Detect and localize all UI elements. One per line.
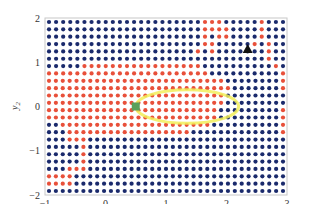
point-red bbox=[182, 71, 186, 75]
point-blue bbox=[189, 57, 193, 61]
point-red bbox=[61, 115, 65, 119]
point-blue bbox=[267, 101, 271, 105]
point-red bbox=[102, 130, 106, 134]
point-blue bbox=[198, 145, 202, 149]
point-blue bbox=[274, 152, 278, 156]
point-blue bbox=[233, 130, 237, 134]
point-blue bbox=[146, 20, 150, 24]
point-blue bbox=[191, 145, 195, 149]
point-blue bbox=[203, 57, 207, 61]
point-red bbox=[129, 130, 133, 134]
point-blue bbox=[136, 145, 140, 149]
point-blue bbox=[116, 160, 120, 164]
point-red bbox=[150, 108, 154, 112]
point-blue bbox=[75, 35, 79, 39]
point-blue bbox=[189, 27, 193, 31]
point-red bbox=[102, 79, 106, 83]
point-red bbox=[68, 86, 72, 90]
point-blue bbox=[185, 160, 189, 164]
point-blue bbox=[54, 145, 58, 149]
point-red bbox=[47, 174, 51, 178]
point-red bbox=[88, 123, 92, 127]
point-red bbox=[116, 123, 120, 127]
point-blue bbox=[104, 20, 108, 24]
point-blue bbox=[198, 174, 202, 178]
point-red bbox=[81, 160, 85, 164]
grid-points bbox=[47, 20, 285, 193]
point-red bbox=[68, 71, 72, 75]
point-blue bbox=[81, 182, 85, 186]
point-blue bbox=[160, 49, 164, 53]
point-red bbox=[212, 93, 216, 97]
point-blue bbox=[125, 20, 129, 24]
point-blue bbox=[125, 49, 129, 53]
point-blue bbox=[146, 42, 150, 46]
point-red bbox=[109, 101, 113, 105]
point-red bbox=[219, 101, 223, 105]
point-red bbox=[54, 79, 58, 83]
point-blue bbox=[136, 182, 140, 186]
point-blue bbox=[104, 57, 108, 61]
point-blue bbox=[196, 20, 200, 24]
point-blue bbox=[123, 160, 127, 164]
point-blue bbox=[238, 64, 242, 68]
point-blue bbox=[240, 137, 244, 141]
point-red bbox=[185, 115, 189, 119]
point-blue bbox=[246, 189, 250, 193]
point-red bbox=[123, 93, 127, 97]
point-blue bbox=[226, 130, 230, 134]
point-red bbox=[125, 64, 129, 68]
point-blue bbox=[95, 152, 99, 156]
point-blue bbox=[226, 174, 230, 178]
point-blue bbox=[240, 123, 244, 127]
point-blue bbox=[104, 49, 108, 53]
point-blue bbox=[125, 42, 129, 46]
point-blue bbox=[219, 145, 223, 149]
point-blue bbox=[185, 189, 189, 193]
point-blue bbox=[274, 71, 278, 75]
point-red bbox=[143, 123, 147, 127]
point-red bbox=[210, 42, 214, 46]
point-blue bbox=[205, 145, 209, 149]
point-blue bbox=[102, 145, 106, 149]
point-blue bbox=[88, 174, 92, 178]
point-blue bbox=[61, 145, 65, 149]
point-red bbox=[47, 182, 51, 186]
point-blue bbox=[109, 152, 113, 156]
point-blue bbox=[178, 145, 182, 149]
point-blue bbox=[267, 130, 271, 134]
point-blue bbox=[198, 130, 202, 134]
point-blue bbox=[226, 160, 230, 164]
point-red bbox=[143, 108, 147, 112]
point-blue bbox=[246, 86, 250, 90]
point-blue bbox=[47, 160, 51, 164]
point-blue bbox=[54, 42, 58, 46]
point-blue bbox=[274, 167, 278, 171]
point-blue bbox=[267, 20, 271, 24]
point-blue bbox=[75, 57, 79, 61]
point-blue bbox=[143, 167, 147, 171]
point-red bbox=[129, 115, 133, 119]
point-blue bbox=[217, 57, 221, 61]
point-blue bbox=[267, 93, 271, 97]
point-red bbox=[81, 101, 85, 105]
point-blue bbox=[274, 189, 278, 193]
point-red bbox=[164, 101, 168, 105]
point-blue bbox=[89, 27, 93, 31]
point-blue bbox=[246, 108, 250, 112]
point-blue bbox=[102, 182, 106, 186]
decision-map-chart: −10123 −2−1012 x1 y2 bbox=[0, 0, 322, 204]
point-red bbox=[212, 115, 216, 119]
point-blue bbox=[233, 115, 237, 119]
point-red bbox=[171, 130, 175, 134]
point-blue bbox=[171, 189, 175, 193]
point-blue bbox=[150, 145, 154, 149]
point-red bbox=[68, 137, 72, 141]
point-blue bbox=[102, 137, 106, 141]
point-red bbox=[157, 79, 161, 83]
point-blue bbox=[219, 189, 223, 193]
point-blue bbox=[88, 137, 92, 141]
point-red bbox=[88, 79, 92, 83]
point-blue bbox=[267, 137, 271, 141]
point-blue bbox=[253, 167, 257, 171]
